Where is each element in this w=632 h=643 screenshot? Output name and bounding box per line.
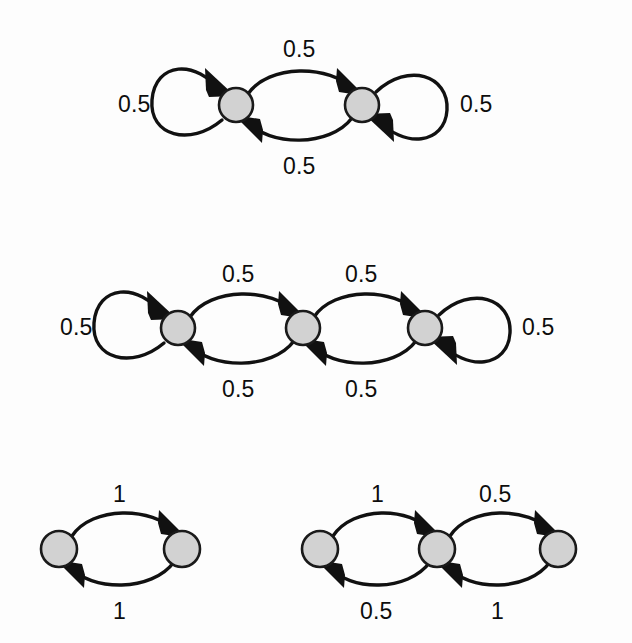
state-node <box>161 311 195 345</box>
state-node <box>164 531 200 567</box>
state-node <box>41 531 77 567</box>
state-node <box>302 531 338 567</box>
diagram-1-group <box>152 68 447 143</box>
diagram-2-group <box>94 291 510 366</box>
d2-edge-n2-n3 <box>314 291 429 319</box>
diagram-3-group <box>41 510 200 588</box>
d1-edge-n2-n1 <box>234 115 352 143</box>
figure-canvas: 0.5 0.5 0.5 0.5 0.5 0.5 0.5 0.5 0.5 0.5 … <box>0 0 632 643</box>
state-node <box>219 88 253 122</box>
state-node <box>408 311 442 345</box>
edge-weight-label: 0.5 <box>60 316 93 339</box>
d3-edge-n1-n2 <box>72 510 187 538</box>
edge-weight-label: 0.5 <box>522 316 555 339</box>
edge-weight-label: 1 <box>113 600 126 623</box>
diagram-4-group <box>302 510 576 588</box>
edge-weight-label: 0.5 <box>460 93 493 116</box>
d4-edge-n2-n1 <box>316 560 430 588</box>
edge-weight-label: 1 <box>491 600 504 623</box>
edge-weight-label: 0.5 <box>479 483 512 506</box>
edge-weight-label: 0.5 <box>345 378 378 401</box>
edge-weight-label: 0.5 <box>283 38 316 61</box>
state-node <box>540 531 576 567</box>
d1-edge-n1-n2 <box>248 68 365 96</box>
state-node <box>286 311 320 345</box>
d4-edge-n2-n3 <box>450 510 563 538</box>
d2-edge-n1-n2 <box>190 291 307 319</box>
d2-edge-n2-n1 <box>176 338 294 366</box>
edge-weight-label: 0.5 <box>360 600 393 623</box>
edge-weight-label: 1 <box>371 483 384 506</box>
edge-weight-label: 0.5 <box>222 378 255 401</box>
edge-weight-label: 0.5 <box>118 93 151 116</box>
state-node <box>345 88 379 122</box>
edge-weight-label: 1 <box>113 483 126 506</box>
d4-edge-n3-n2 <box>434 560 550 588</box>
edge-weight-label: 0.5 <box>345 263 378 286</box>
edge-weight-label: 0.5 <box>283 155 316 178</box>
edge-weight-label: 0.5 <box>222 263 255 286</box>
d3-edge-n2-n1 <box>56 560 174 588</box>
d2-edge-n3-n2 <box>298 338 416 366</box>
state-node <box>419 531 455 567</box>
